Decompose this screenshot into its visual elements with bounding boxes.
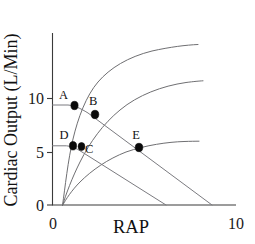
y-tick-label-5: 5 xyxy=(36,144,44,161)
cardiac-function-curves xyxy=(63,45,204,206)
point-E-marker xyxy=(135,143,143,151)
chart-svg: A B C D E 10 5 0 0 10 RAP Cardiac Output… xyxy=(0,0,255,244)
x-tick-label-10: 10 xyxy=(228,215,244,232)
venous-return-curve-high xyxy=(53,105,213,205)
point-C-label: C xyxy=(85,142,93,156)
y-tick-label-0: 0 xyxy=(36,197,44,214)
point-D-label: D xyxy=(59,128,68,142)
point-D-marker xyxy=(69,142,76,150)
point-E-label: E xyxy=(132,128,140,142)
x-tick-label-0: 0 xyxy=(49,215,57,232)
cardiac-function-curve-high xyxy=(63,45,199,206)
point-A-label: A xyxy=(59,88,68,102)
intersection-points: A B C D E xyxy=(59,88,143,156)
y-axis-title: Cardiac Output (L/Min) xyxy=(1,34,22,207)
x-axis-title: RAP xyxy=(113,217,149,237)
axes-group xyxy=(47,33,236,206)
point-A-marker xyxy=(71,101,78,109)
point-B-label: B xyxy=(89,94,97,108)
y-tick-label-10: 10 xyxy=(28,90,44,107)
cardiac-function-curve-low xyxy=(63,141,200,205)
point-B-marker xyxy=(91,110,99,118)
venous-return-curves xyxy=(53,105,213,205)
cardiac-output-rap-chart: A B C D E 10 5 0 0 10 RAP Cardiac Output… xyxy=(0,0,255,244)
tick-labels: 10 5 0 0 10 xyxy=(28,90,244,232)
point-C-marker xyxy=(78,143,85,151)
